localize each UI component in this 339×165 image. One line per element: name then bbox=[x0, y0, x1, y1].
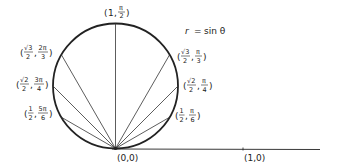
label-pi-over-2: ( 1 , π 2 ) bbox=[104, 4, 130, 20]
paren-close: ) bbox=[126, 8, 130, 18]
theta-den: 4 bbox=[37, 85, 41, 93]
ray-pi-over-3 bbox=[116, 55, 170, 149]
label-pi-over-6: ( 1 2 , π 6 ) bbox=[175, 107, 201, 124]
theta-den: 6 bbox=[191, 116, 195, 124]
polar-axis bbox=[112, 149, 320, 150]
theta-num: 2π bbox=[39, 44, 47, 52]
theta-num: 3π bbox=[35, 76, 43, 84]
theta-den: 6 bbox=[41, 114, 45, 122]
label-3pi-over-4: ( √2 2 , 3π 4 ) bbox=[16, 76, 49, 93]
comma: , bbox=[114, 8, 117, 18]
paren-open: ( bbox=[175, 111, 179, 121]
paren-open: ( bbox=[24, 109, 28, 119]
theta-den: 4 bbox=[203, 86, 207, 94]
paren-open: ( bbox=[104, 8, 108, 18]
polar-graph-diagram: r = sin θ ( 1 , π 2 ) ( √3 2 , π 3 ) bbox=[0, 0, 339, 165]
paren-close: ) bbox=[49, 48, 53, 58]
paren-open: ( bbox=[177, 52, 181, 62]
paren-close: ) bbox=[49, 109, 53, 119]
paren-close: ) bbox=[197, 111, 201, 121]
r-den: 2 bbox=[183, 57, 187, 65]
paren-open: ( bbox=[20, 48, 24, 58]
comma: , bbox=[34, 48, 37, 58]
equation-label: r = sin θ bbox=[185, 26, 226, 36]
theta-num: π bbox=[202, 77, 206, 85]
label-5pi-over-6: ( 1 2 , 5π 6 ) bbox=[24, 105, 53, 122]
r-den: 2 bbox=[22, 85, 26, 93]
paren-open: ( bbox=[16, 80, 20, 90]
theta-den: 3 bbox=[197, 57, 201, 65]
ray-2pi-over-3 bbox=[61, 55, 115, 149]
theta-num: π bbox=[190, 107, 194, 115]
comma: , bbox=[30, 80, 33, 90]
label-pi-over-3: ( √3 2 , π 3 ) bbox=[177, 48, 207, 65]
theta-num: 5π bbox=[39, 105, 47, 113]
origin-label: (0,0) bbox=[117, 153, 138, 163]
r-num: √2 bbox=[20, 76, 28, 84]
r-num: √2 bbox=[187, 77, 195, 85]
r-den: 2 bbox=[29, 114, 33, 122]
paren-close: ) bbox=[203, 52, 207, 62]
theta-den: 3 bbox=[41, 53, 45, 61]
r-num: 1 bbox=[29, 105, 33, 113]
point-1-0-label: (1,0) bbox=[244, 153, 265, 163]
paren-close: ) bbox=[45, 80, 49, 90]
theta-den: 2 bbox=[120, 12, 124, 20]
r-num: √3 bbox=[181, 48, 189, 56]
equation-rhs: sin θ bbox=[204, 26, 226, 36]
comma: , bbox=[185, 111, 188, 121]
label-pi-over-4: ( √2 2 , π 4 ) bbox=[183, 77, 213, 94]
theta-num: π bbox=[119, 4, 123, 12]
r-num: 1 bbox=[180, 107, 184, 115]
paren-open: ( bbox=[183, 81, 187, 91]
r-den: 2 bbox=[26, 53, 30, 61]
r-value: 1 bbox=[108, 8, 114, 18]
label-2pi-over-3: ( √3 2 , 2π 3 ) bbox=[20, 44, 53, 61]
equation-lhs: r bbox=[185, 26, 190, 36]
comma: , bbox=[34, 109, 37, 119]
equation-eq: = bbox=[194, 26, 202, 36]
r-den: 2 bbox=[180, 116, 184, 124]
paren-close: ) bbox=[209, 81, 213, 91]
comma: , bbox=[191, 52, 194, 62]
r-den: 2 bbox=[189, 86, 193, 94]
r-num: √3 bbox=[24, 44, 32, 52]
theta-num: π bbox=[196, 48, 200, 56]
origin-dot bbox=[114, 147, 117, 150]
comma: , bbox=[197, 81, 200, 91]
